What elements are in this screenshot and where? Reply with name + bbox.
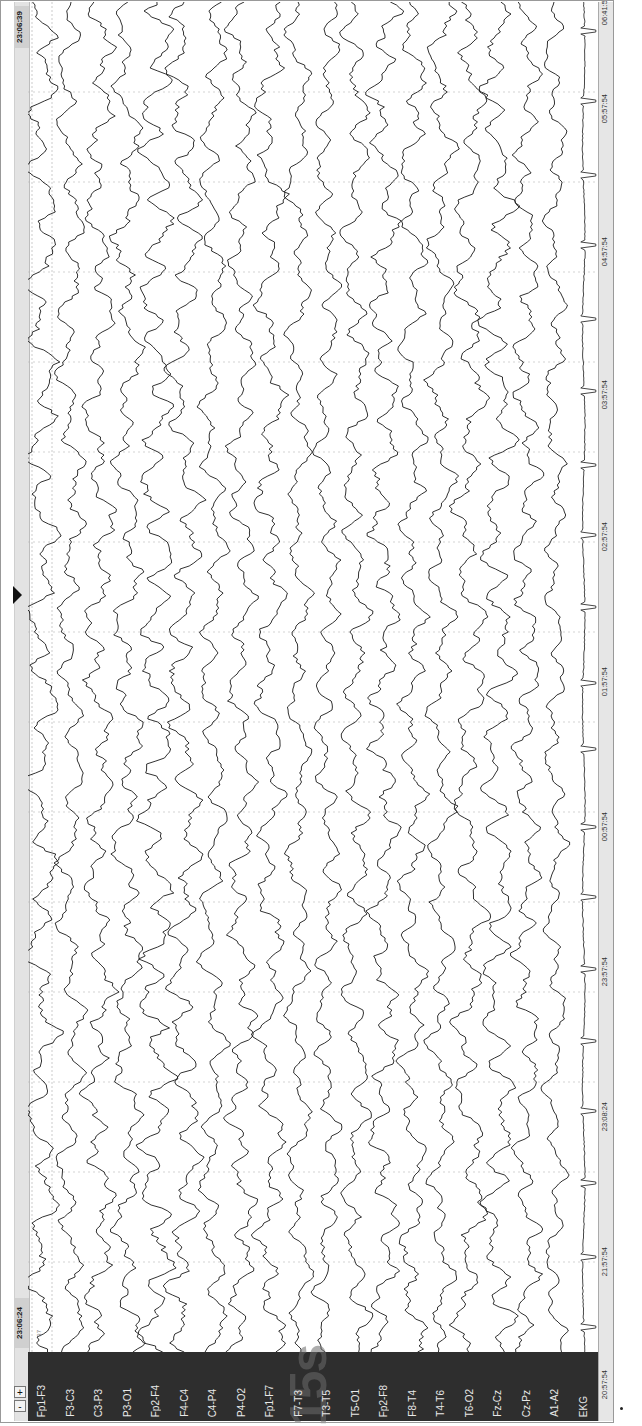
channel-label[interactable]: T5-O1	[350, 1389, 370, 1417]
time-tick-label: 00:57:54	[600, 812, 612, 841]
channel-label[interactable]: C3-P3	[93, 1389, 113, 1417]
trace-t5-o1	[340, 2, 373, 1352]
zoom-in-button[interactable]: +	[14, 1386, 26, 1398]
eeg-trace-area[interactable]	[28, 2, 598, 1352]
channel-label[interactable]: P3-O1	[122, 1388, 142, 1417]
channel-label[interactable]: T6-O2	[464, 1389, 484, 1417]
time-tick-label: 01:57:54	[600, 667, 612, 696]
event-marker-icon[interactable]	[13, 586, 22, 604]
page-margin	[614, 0, 642, 1423]
trace-f3-c3	[54, 2, 88, 1352]
channel-label[interactable]: T4-T6	[435, 1390, 455, 1417]
trace-c3-p3	[79, 2, 119, 1352]
channel-label[interactable]: P4-O2	[236, 1388, 256, 1417]
channel-label[interactable]: C4-P4	[207, 1389, 227, 1417]
trace-f4-c4	[163, 2, 206, 1352]
channel-label[interactable]: Fp2-F4	[150, 1385, 170, 1417]
trace-cz-pz	[511, 2, 544, 1352]
page-start-time: 23:06:24	[15, 1298, 29, 1348]
trace-f8-t4	[396, 2, 430, 1352]
eeg-viewer: 23:06:39 23:06:24 + - 37 20:57:5421:57:5…	[0, 0, 614, 1423]
channel-label[interactable]: EKG	[578, 1396, 598, 1417]
eeg-traces	[28, 2, 598, 1352]
time-tick-label: 23:57:54	[600, 957, 612, 986]
zoom-controls: + -	[14, 1384, 28, 1412]
time-tick-label: 21:57:54	[600, 1247, 612, 1276]
channel-label[interactable]: T3-T5	[321, 1390, 341, 1417]
time-tick-label: 04:57:54	[600, 237, 612, 266]
time-tick-label: 02:57:54	[600, 522, 612, 551]
channel-label-panel: 15s Fp1-F3F3-C3C3-P3P3-O1Fp2-F4F4-C4C4-P…	[28, 1352, 598, 1421]
trace-a1-a2	[541, 2, 570, 1352]
page-end-time: 23:06:39	[15, 6, 29, 48]
trace-t6-o2	[449, 2, 490, 1352]
trace-c4-p4	[196, 2, 230, 1352]
channel-label[interactable]: Fp2-F8	[378, 1385, 398, 1417]
channel-label[interactable]: Fp1-F3	[36, 1385, 56, 1417]
time-axis: 20:57:5421:57:5423:08:2423:57:5400:57:54…	[598, 2, 614, 1421]
time-tick-label: 06:41:54	[600, 0, 612, 25]
channel-label[interactable]: Cz-Pz	[521, 1390, 541, 1417]
channel-label[interactable]: F3-C3	[65, 1389, 85, 1417]
channel-label[interactable]: A1-A2	[549, 1389, 569, 1417]
trace-p4-o2	[224, 2, 259, 1352]
channel-label[interactable]: F7-T3	[293, 1390, 313, 1417]
channel-label[interactable]: Fz-Cz	[492, 1390, 512, 1417]
time-tick-label: 20:57:54	[600, 1370, 612, 1399]
trace-fp1-f3	[28, 2, 63, 1352]
zoom-out-button[interactable]: -	[14, 1400, 26, 1412]
channel-label[interactable]: Fp1-F7	[264, 1385, 284, 1417]
trace-t4-t6	[424, 2, 460, 1352]
annotation-marker: 37	[36, 1330, 42, 1337]
trace-t3-t5	[311, 2, 342, 1352]
channel-label[interactable]: F8-T4	[407, 1390, 427, 1417]
trace-fp2-f8	[366, 2, 404, 1352]
trace-ekg	[581, 2, 596, 1352]
time-tick-label: 23:08:24	[600, 1102, 612, 1131]
time-tick-label: 03:57:54	[600, 380, 612, 409]
trace-f7-t3	[284, 2, 315, 1352]
time-tick-label: 05:57:54	[600, 94, 612, 123]
trace-fp2-f4	[136, 2, 178, 1352]
dot-mark	[620, 1407, 623, 1410]
channel-label[interactable]: F4-C4	[179, 1389, 199, 1417]
trace-fp1-f7	[251, 2, 289, 1352]
